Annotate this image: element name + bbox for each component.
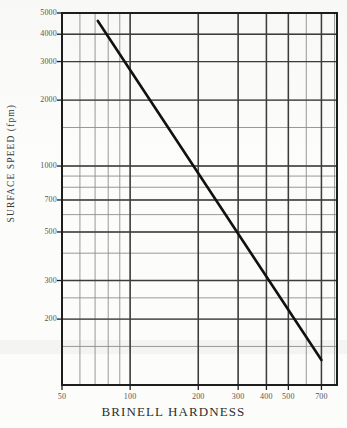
y-minor-gridlines [62,34,337,346]
chart-container: 50004000300020001000700500300200 5010020… [0,0,347,428]
y-tick-label: 1000 [24,161,57,170]
y-axis-title: SURFACE SPEED (fpm) [6,104,24,222]
plot-frame [62,13,337,385]
x-axis-title: BRINELL HARDNESS [0,404,347,420]
x-tick-label: 200 [182,392,214,401]
y-tick-label: 200 [24,314,57,323]
y-tick-label: 5000 [24,8,57,17]
x-major-gridlines [62,13,321,385]
x-minor-gridlines [80,13,335,385]
x-tick-label: 50 [46,392,78,401]
y-major-gridlines [62,13,337,319]
y-tick-label: 300 [24,276,57,285]
y-tick-label: 500 [24,227,57,236]
x-tick-label: 100 [114,392,146,401]
x-tick-label: 300 [222,392,254,401]
y-tick-label: 700 [24,195,57,204]
y-tick-label: 4000 [24,29,57,38]
x-tick-label: 500 [272,392,304,401]
y-tick-label: 2000 [24,95,57,104]
y-tick-label: 3000 [24,57,57,66]
x-tick-label: 700 [305,392,337,401]
axis-tick-marks [57,13,321,390]
